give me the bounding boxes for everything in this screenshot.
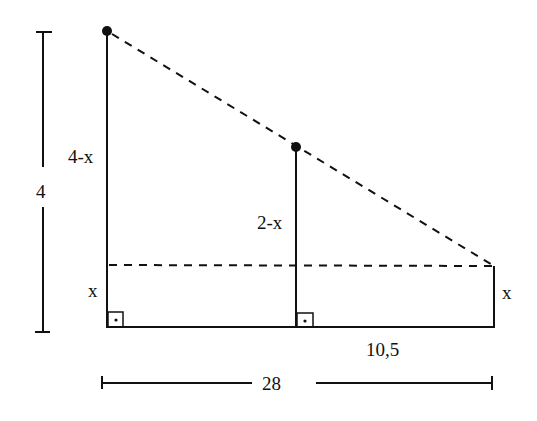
left-lower-label: x [88,280,98,301]
width-dimension [102,376,492,390]
diagram: 4 4-x x 2-x x 10,5 28 [0,0,537,421]
bottom-right-segment-label: 10,5 [366,339,399,360]
total-height-label: 4 [36,181,46,202]
right-side-label: x [502,282,512,303]
right-angle-marker-middle [297,313,313,327]
left-upper-label: 4-x [68,146,94,167]
right-angle-marker-left [108,312,123,327]
top-left-dot [102,26,112,36]
dashed-hypotenuse [112,34,494,266]
dashed-horizontal [109,265,494,266]
middle-upper-label: 2-x [257,212,283,233]
total-width-label: 28 [262,373,281,394]
